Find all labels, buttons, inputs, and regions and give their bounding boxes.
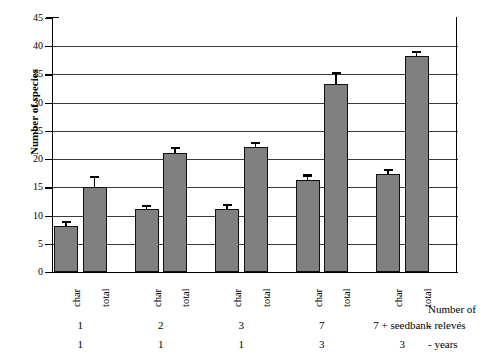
error-bar-cap <box>384 169 393 171</box>
error-bar-cap <box>171 147 180 149</box>
error-bar-cap <box>251 142 260 144</box>
y-tick-label: 20 <box>3 154 43 164</box>
y-tick-label: 10 <box>3 211 43 221</box>
bar <box>215 209 239 272</box>
error-bar-cap <box>62 221 71 223</box>
y-tick-label: 35 <box>3 69 43 79</box>
gridline <box>52 74 458 75</box>
error-bar-cap <box>223 204 232 206</box>
bar <box>376 174 400 272</box>
chart-figure: Number of species 051015202530354045 cha… <box>0 0 499 363</box>
bar <box>296 180 320 272</box>
x-tick-label: total <box>100 288 111 307</box>
y-tick-label: 0 <box>3 267 43 277</box>
y-tick-label: 15 <box>3 182 43 192</box>
error-bar-cap <box>303 174 312 176</box>
bar <box>135 209 159 272</box>
bar <box>324 84 348 272</box>
footer-years-label: - years <box>428 338 458 350</box>
x-tick-label: char <box>393 289 404 307</box>
plot-right-border <box>456 17 457 273</box>
error-bar-cap <box>412 51 421 53</box>
x-tick-label: total <box>180 288 191 307</box>
bar <box>83 187 107 272</box>
y-tick-label: 30 <box>3 98 43 108</box>
bar <box>405 56 429 272</box>
x-tick-label: char <box>71 289 82 307</box>
bar <box>244 147 268 272</box>
error-bar-cap <box>142 205 151 207</box>
bar <box>54 226 78 272</box>
footer-releves-label: - relevés <box>428 319 466 331</box>
x-tick-label: total <box>341 288 352 307</box>
x-axis-line <box>52 272 458 273</box>
y-tick-label: 45 <box>3 13 43 23</box>
x-tick-label: total <box>261 288 272 307</box>
x-tick-label: char <box>313 289 324 307</box>
error-bar-cap <box>90 176 99 178</box>
gridline <box>52 131 458 132</box>
error-bar-cap <box>332 72 341 74</box>
y-tick-label: 5 <box>3 239 43 249</box>
footer-legend-title: Number of <box>428 303 476 315</box>
gridline <box>52 103 458 104</box>
y-tick-label: 40 <box>3 41 43 51</box>
y-tick-label: 25 <box>3 126 43 136</box>
x-tick-label: char <box>152 289 163 307</box>
y-axis-tick-labels: 051015202530354045 <box>0 0 43 300</box>
bar <box>163 153 187 272</box>
gridline <box>52 46 458 47</box>
x-tick-label: char <box>232 289 243 307</box>
